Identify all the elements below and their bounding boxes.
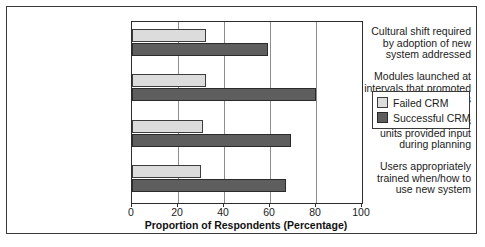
bar-group: [132, 113, 362, 158]
bar-group: [132, 158, 362, 203]
chart-figure: Cultural shift required by adoption of n…: [6, 6, 477, 234]
legend-item-failed: Failed CRM: [377, 95, 465, 110]
x-tick-label: 60: [263, 206, 275, 218]
legend-label: Successful CRM: [393, 112, 471, 124]
category-label-line: Modules launched at: [354, 71, 471, 83]
legend-swatch-icon: [377, 112, 388, 123]
bar-successful: [132, 179, 286, 192]
legend-item-successful: Successful CRM: [377, 110, 465, 125]
x-tick-label: 40: [217, 206, 229, 218]
bar-group: [132, 22, 362, 67]
bar-successful: [132, 134, 291, 147]
x-tick-label: 20: [171, 206, 183, 218]
category-label: Users appropriately trained when/how to …: [354, 161, 476, 196]
x-tick-label: 80: [309, 206, 321, 218]
category-label-line: system addressed: [354, 49, 471, 61]
x-axis-title: Proportion of Respondents (Percentage): [131, 219, 361, 231]
legend-label: Failed CRM: [393, 97, 448, 109]
category-label: Cultural shift required by adoption of n…: [354, 26, 476, 61]
category-label-line: during planning: [354, 139, 471, 151]
bar-failed: [132, 120, 203, 133]
plot-area: [131, 21, 363, 204]
category-label-line: Cultural shift required: [354, 26, 471, 38]
chart-legend: Failed CRM Successful CRM: [372, 91, 470, 129]
bar-successful: [132, 88, 316, 101]
category-label-line: use new system: [354, 184, 471, 196]
bar-successful: [132, 43, 268, 56]
bar-failed: [132, 165, 201, 178]
bar-group: [132, 67, 362, 112]
bar-failed: [132, 29, 206, 42]
x-tick-label: 100: [352, 206, 370, 218]
legend-swatch-icon: [377, 97, 388, 108]
x-tick-label: 0: [128, 206, 134, 218]
bar-failed: [132, 74, 206, 87]
category-label-line: Users appropriately: [354, 161, 471, 173]
